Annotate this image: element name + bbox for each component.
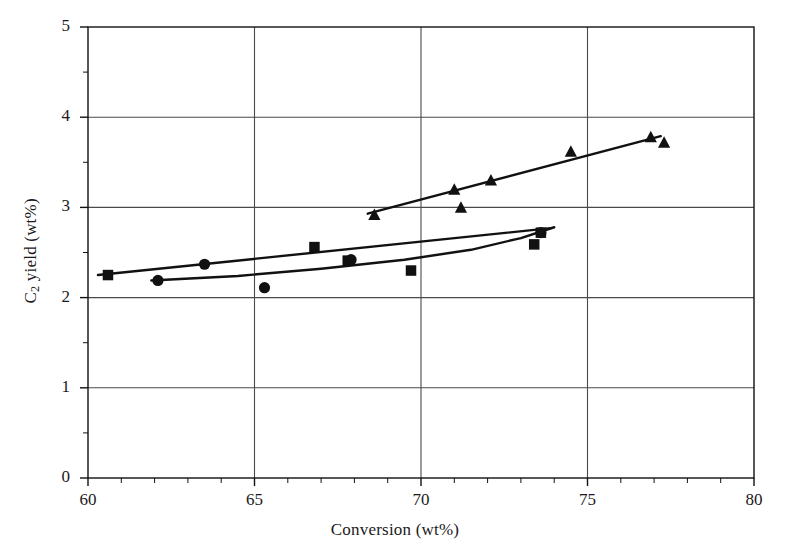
x-tick-label: 70 bbox=[391, 490, 451, 510]
x-tick-label: 80 bbox=[724, 490, 784, 510]
trend-lines bbox=[98, 136, 661, 280]
x-tick-label: 65 bbox=[225, 490, 285, 510]
y-axis-title-post: yield (wt%) bbox=[21, 198, 40, 285]
x-tick-label: 60 bbox=[58, 490, 118, 510]
data-point-circle bbox=[152, 275, 163, 286]
axis-ticks bbox=[80, 27, 754, 486]
chart-figure: 6065707580 012345 Conversion (wt%) C2 yi… bbox=[0, 0, 790, 560]
data-point-triangle bbox=[658, 136, 670, 148]
y-tick-label: 5 bbox=[20, 16, 70, 36]
data-point-circle bbox=[345, 254, 356, 265]
data-point-square bbox=[406, 265, 417, 276]
data-point-circle bbox=[259, 282, 270, 293]
y-axis-title: C2 yield (wt%) bbox=[21, 198, 43, 303]
data-point-circle bbox=[199, 259, 210, 270]
data-point-square bbox=[529, 239, 540, 250]
x-axis-title: Conversion (wt%) bbox=[0, 520, 790, 540]
y-axis-title-subscript: 2 bbox=[28, 286, 42, 292]
data-point-circle bbox=[535, 227, 546, 238]
y-tick-label: 0 bbox=[20, 467, 70, 487]
gridlines bbox=[88, 27, 754, 478]
data-point-square bbox=[309, 242, 320, 253]
data-point-square bbox=[103, 270, 114, 281]
y-axis-title-wrap: C2 yield (wt%) bbox=[21, 101, 43, 401]
x-tick-label: 75 bbox=[558, 490, 618, 510]
y-axis-title-pre: C bbox=[21, 292, 40, 304]
chart-plot-area bbox=[0, 0, 790, 560]
data-point-triangle bbox=[565, 145, 577, 157]
